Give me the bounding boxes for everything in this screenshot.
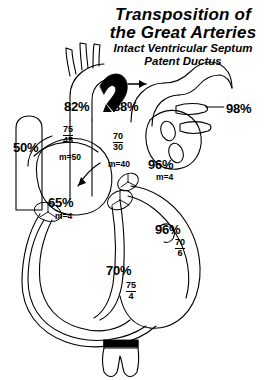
right-ventricle-pressure-systolic: 75 (126, 281, 136, 292)
aorta-pressure-label: 75 45 (63, 125, 73, 146)
descending-aorta-bifurcation (103, 348, 139, 377)
subtitle-line-2: Patent Ductus (94, 55, 272, 68)
pulmonary-artery-pressure-label: 70 30 (113, 132, 123, 153)
right-ventricle-pressure-label: 75 4 (126, 281, 136, 302)
ductus-flow-arrow-head (139, 80, 146, 88)
right-atrium-mean-pressure-label: m=4 (55, 211, 72, 221)
title-line-1: Transposition of (94, 6, 272, 24)
left-ventricle-pressure-systolic: 70 (175, 238, 185, 249)
pulmonary-artery-pressure-diastolic: 30 (113, 143, 123, 153)
left-atrium-saturation-label: 96% (148, 157, 173, 172)
right-ventricle-saturation-label: 70% (106, 263, 131, 278)
right-pulmonary-artery-lower (179, 75, 220, 95)
aorta-pressure-systolic: 75 (63, 125, 73, 136)
right-ventricle-pressure-diastolic: 4 (126, 292, 136, 302)
left-ventricle-pressure-diastolic: 6 (175, 249, 185, 259)
title-line-2: the Great Arteries (94, 24, 272, 42)
heart-diagram-figure: Transposition of the Great Arteries Inta… (0, 0, 278, 380)
left-ventricle-saturation-label: 96% (155, 222, 180, 237)
subtitle-line-1: Intact Ventricular Septum (94, 42, 272, 55)
right-atrium-saturation-label: 65% (48, 195, 73, 210)
superior-vena-cava (16, 116, 42, 210)
figure-title-block: Transposition of the Great Arteries Inta… (94, 6, 272, 68)
left-ventricle-free-wall (131, 186, 200, 328)
vena-cava-saturation-label: 50% (13, 140, 38, 155)
lower-pulmonary-vein (180, 122, 211, 134)
interventricular-septum (100, 200, 124, 320)
interventricular-septum-inner (94, 206, 116, 318)
left-atrium-mean-pressure-label: m=4 (156, 172, 173, 182)
left-carotid-branch (80, 43, 88, 70)
left-ventricle-pressure-label: 70 6 (175, 238, 185, 259)
pulmonary-artery-saturation-label: 88% (113, 99, 138, 114)
coarctation-marker (104, 340, 138, 347)
aorta-pressure-diastolic: 45 (63, 136, 73, 146)
brachiocephalic-branch (66, 48, 76, 76)
aorta-mean-pressure-label: m=50 (59, 152, 81, 162)
pulmonary-artery-mean-pressure-label: m=40 (108, 159, 130, 169)
pulmonary-vein-ostium-upper (158, 119, 177, 142)
upper-pulmonary-vein (176, 104, 208, 115)
pulmonary-vein-saturation-label: 98% (226, 101, 251, 116)
systemic-venous-flow-arrow-head (78, 177, 86, 186)
aorta-saturation-label: 82% (64, 99, 89, 114)
pulmonary-artery-pressure-systolic: 70 (113, 132, 123, 143)
